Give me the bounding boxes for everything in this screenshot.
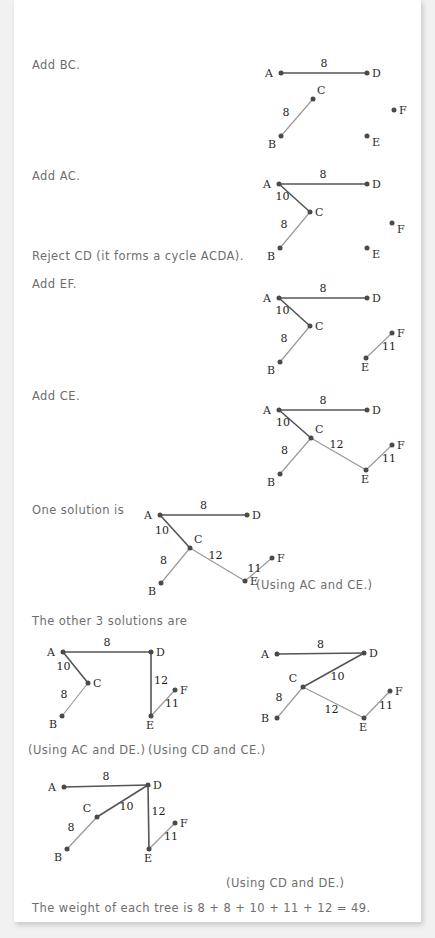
- node-C: [308, 324, 313, 329]
- edge-weight-CE: 12: [209, 549, 223, 562]
- node-label-E: E: [359, 721, 367, 734]
- edge-weight-EF: 11: [379, 699, 393, 712]
- edge-weight-EF: 11: [165, 697, 179, 710]
- node-label-B: B: [267, 476, 275, 489]
- edge-weight-CE: 12: [325, 703, 339, 716]
- node-label-A: A: [47, 781, 57, 794]
- node-D: [365, 71, 370, 76]
- figure-add-ce: 81081211ADCBFE: [262, 394, 405, 489]
- node-F: [173, 688, 178, 693]
- edge-weight-EF: 11: [248, 562, 262, 575]
- node-label-C: C: [83, 802, 91, 815]
- node-D: [362, 651, 367, 656]
- node-label-C: C: [315, 320, 323, 333]
- node-A: [277, 408, 282, 413]
- node-label-B: B: [261, 712, 269, 725]
- edge-weight-BC: 8: [61, 688, 68, 701]
- step-reject-cd: Reject CD (it forms a cycle ACDA).: [32, 249, 244, 263]
- edge-weight-AD: 8: [200, 499, 207, 512]
- node-F: [390, 221, 395, 226]
- edge-weight-CD: 10: [331, 670, 345, 683]
- node-label-F: F: [395, 685, 403, 698]
- node-A: [275, 652, 280, 657]
- edge-weight-DE: 12: [152, 805, 166, 818]
- edge-weight-AC: 10: [276, 416, 290, 429]
- node-B: [278, 246, 283, 251]
- edge-weight-BC: 8: [281, 444, 288, 457]
- node-B: [275, 716, 280, 721]
- edge-weight-EF: 11: [164, 830, 178, 843]
- edge-weight-EF: 11: [382, 340, 396, 353]
- caption-ac-de: (Using AC and DE.): [28, 743, 145, 757]
- edge-weight-EF: 11: [382, 452, 396, 465]
- node-E: [365, 134, 370, 139]
- node-D: [146, 783, 151, 788]
- node-F: [270, 556, 275, 561]
- node-label-D: D: [252, 509, 261, 522]
- node-C: [311, 97, 316, 102]
- node-label-E: E: [361, 473, 369, 486]
- node-label-A: A: [262, 292, 272, 305]
- node-label-F: F: [180, 817, 188, 830]
- node-C: [301, 685, 306, 690]
- node-B: [279, 134, 284, 139]
- edge-weight-AC: 10: [57, 660, 71, 673]
- node-B: [60, 714, 65, 719]
- edge-AD: [64, 785, 148, 787]
- node-label-F: F: [397, 439, 405, 452]
- figure-cd-de: 81081211ADCBFE: [47, 770, 188, 865]
- node-label-D: D: [372, 292, 381, 305]
- node-label-E: E: [361, 361, 369, 374]
- node-C: [86, 681, 91, 686]
- node-B: [278, 360, 283, 365]
- node-C: [188, 546, 193, 551]
- figure-add-ac: 8108ADCBFE: [262, 168, 405, 263]
- edge-weight-CE: 12: [330, 438, 344, 451]
- caption-cd-ce: (Using CD and CE.): [148, 743, 266, 757]
- figure-ac-de: 81081211ADCBFE: [46, 636, 188, 732]
- node-label-D: D: [156, 646, 165, 659]
- node-E: [365, 246, 370, 251]
- node-label-A: A: [46, 646, 56, 659]
- node-label-E: E: [144, 852, 152, 865]
- node-D: [365, 182, 370, 187]
- graph-canvas: 88ADCBFE8108ADCBFE810811ADCBFE81081211AD…: [14, 0, 421, 922]
- step-add-ce: Add CE.: [32, 389, 80, 403]
- edge-weight-AC: 10: [155, 524, 169, 537]
- node-E: [149, 714, 154, 719]
- node-label-C: C: [289, 672, 297, 685]
- node-label-C: C: [93, 677, 101, 690]
- edge-weight-AC: 10: [276, 190, 290, 203]
- node-label-E: E: [146, 719, 154, 732]
- node-label-E: E: [372, 136, 380, 149]
- node-E: [362, 716, 367, 721]
- figure-add-ef: 810811ADCBFE: [262, 282, 405, 377]
- node-E: [243, 579, 248, 584]
- node-E: [364, 468, 369, 473]
- node-label-B: B: [268, 138, 276, 151]
- edge-weight-CD: 10: [120, 800, 134, 813]
- node-D: [245, 513, 250, 518]
- node-A: [61, 650, 66, 655]
- step-one-solution: One solution is: [32, 503, 124, 517]
- edge-weight-BC: 8: [283, 106, 290, 119]
- edge-weight-BC: 8: [160, 554, 167, 567]
- edge-weight-AC: 10: [276, 304, 290, 317]
- node-label-C: C: [317, 84, 325, 97]
- edge-weight-AD: 8: [104, 636, 111, 649]
- document-page: 88ADCBFE8108ADCBFE810811ADCBFE81081211AD…: [14, 0, 421, 922]
- node-A: [62, 785, 67, 790]
- caption-ac-ce: (Using AC and CE.): [256, 578, 373, 592]
- node-label-D: D: [369, 647, 378, 660]
- node-C: [309, 436, 314, 441]
- edge-weight-AD: 8: [320, 394, 327, 407]
- node-label-F: F: [399, 104, 407, 117]
- node-A: [158, 513, 163, 518]
- node-label-B: B: [148, 585, 156, 598]
- edge-weight-AD: 8: [320, 168, 327, 181]
- node-label-A: A: [262, 178, 272, 191]
- node-label-B: B: [49, 718, 57, 731]
- node-B: [65, 847, 70, 852]
- node-F: [390, 331, 395, 336]
- node-F: [390, 443, 395, 448]
